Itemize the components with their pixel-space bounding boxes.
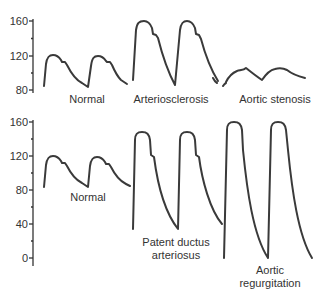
top-tick-120: 120 — [10, 50, 28, 62]
bottom-y-axis: 160 120 80 40 0 — [10, 116, 33, 266]
pressure-waveform-chart: 160 120 80 Normal Arteriosclerosis Aorti… — [0, 0, 331, 291]
bottom-tick-0: 0 — [22, 252, 28, 264]
bottom-normal-waveform — [44, 156, 130, 187]
top-tick-160: 160 — [10, 15, 28, 27]
top-label-aortic-stenosis: Aortic stenosis — [239, 93, 311, 105]
top-arteriosclerosis-waveform — [133, 21, 218, 85]
top-label-normal: Normal — [69, 93, 104, 105]
top-y-axis: 160 120 80 — [10, 15, 33, 96]
bottom-tick-40: 40 — [16, 218, 28, 230]
top-label-arteriosclerosis: Arteriosclerosis — [133, 93, 209, 105]
top-normal-waveform — [44, 55, 127, 87]
bottom-label-normal: Normal — [70, 191, 105, 203]
bottom-label-ar-line2: regurgitation — [239, 277, 300, 289]
top-arteriosclerosis-tail — [223, 83, 226, 86]
bottom-label-pda-line1: Patent ductus — [142, 236, 210, 248]
bottom-tick-120: 120 — [10, 150, 28, 162]
bottom-label-pda-line2: arteriosus — [152, 249, 201, 261]
top-tick-80: 80 — [16, 84, 28, 96]
top-aortic-stenosis-waveform — [226, 68, 305, 82]
bottom-tick-80: 80 — [16, 184, 28, 196]
bottom-label-ar-line1: Aortic — [256, 264, 285, 276]
bottom-pda-waveform — [133, 132, 222, 229]
bottom-tick-160: 160 — [10, 116, 28, 128]
bottom-aortic-regurgitation-waveform — [224, 122, 312, 258]
